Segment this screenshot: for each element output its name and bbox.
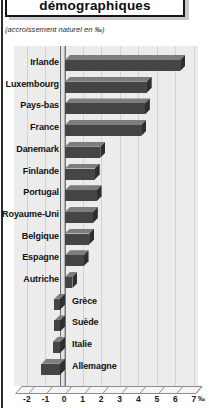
axis-unit-label: ‰ (198, 395, 205, 402)
category-label-suede: Suède (72, 312, 99, 334)
category-label-luxembourg: Luxembourg (5, 74, 59, 96)
axis-label-1: 1 (75, 394, 91, 404)
bar-portugal (65, 185, 102, 201)
bar-irlande (65, 55, 185, 71)
bar-row-autriche: Autriche (14, 269, 198, 291)
axis-tick-1 (84, 387, 90, 393)
bar-autriche (65, 272, 77, 288)
bar-danemark (65, 142, 105, 158)
axis-label--1: -1 (37, 394, 53, 404)
bar-france (65, 120, 146, 136)
category-label-pays-bas: Pays-bas (20, 95, 59, 117)
bar-top-face (65, 207, 98, 212)
category-label-allemagne: Allemagne (72, 356, 117, 378)
bar-face (65, 190, 97, 201)
x-axis-band (15, 386, 203, 394)
bar-top-face (65, 77, 152, 82)
bar-row-suede: Suède (14, 312, 198, 334)
axis-label--2: -2 (19, 394, 35, 404)
bar-face (54, 299, 60, 310)
bar-row-belgique: Belgique (14, 226, 198, 248)
category-label-royaume-uni: Royaume-Uni (2, 204, 59, 226)
axis-label-0: 0 (56, 394, 72, 404)
chart-subtitle: (accroissement naturel en ‰) (5, 25, 105, 34)
axis-tick--1 (47, 387, 53, 393)
axis-tick-3 (122, 387, 128, 393)
bar-royaume-uni (65, 207, 98, 223)
axis-tick-4 (140, 387, 146, 393)
bar-row-allemagne: Allemagne (14, 356, 198, 378)
bar-top-face (65, 164, 100, 169)
bar-face (65, 277, 72, 288)
bar-row-finlande: Finlande (14, 161, 198, 183)
axis-label-2: 2 (93, 394, 109, 404)
bar-suede (54, 315, 65, 331)
bar-top-face (65, 185, 102, 190)
bar-row-irlande: Irlande (14, 52, 198, 74)
bar-row-royaume-uni: Royaume-Uni (14, 204, 198, 226)
bar-face (65, 60, 180, 71)
bar-luxembourg (65, 77, 152, 93)
category-label-grece: Grèce (72, 291, 97, 313)
bar-row-portugal: Portugal (14, 182, 198, 204)
bar-italie (53, 337, 65, 353)
bar-finlande (65, 164, 100, 180)
bar-grece (54, 294, 65, 310)
category-label-italie: Italie (72, 334, 92, 356)
bar-face (65, 82, 147, 93)
bar-face (65, 255, 84, 266)
bar-top-face (65, 55, 185, 60)
axis-tick-0 (66, 387, 72, 393)
bar-face (54, 320, 60, 331)
bar-top-face (65, 120, 146, 125)
plot-area: IrlandeLuxembourgPays-basFranceDanemarkF… (14, 46, 198, 386)
bar-belgique (65, 229, 94, 245)
bar-row-italie: Italie (14, 334, 198, 356)
bar-top-face (65, 142, 105, 147)
axis-label-5: 5 (149, 394, 165, 404)
bar-face (65, 212, 93, 223)
bar-row-danemark: Danemark (14, 139, 198, 161)
bar-face (65, 125, 141, 136)
category-label-espagne: Espagne (22, 247, 59, 269)
axis-tick--2 (29, 387, 35, 393)
x-axis-labels: -2-101234567‰ (0, 394, 209, 408)
bar-face (65, 147, 100, 158)
bar-face (41, 364, 60, 375)
bar-top-face (65, 229, 94, 234)
axis-label-3: 3 (112, 394, 128, 404)
category-label-irlande: Irlande (30, 52, 59, 74)
chart-title: démographiques (39, 0, 151, 13)
category-label-finlande: Finlande (23, 161, 59, 183)
bar-row-espagne: Espagne (14, 247, 198, 269)
bar-face (65, 169, 95, 180)
category-label-portugal: Portugal (23, 182, 59, 204)
bar-face (65, 103, 145, 114)
bar-face (53, 342, 60, 353)
axis-tick-5 (159, 387, 165, 393)
bar-row-luxembourg: Luxembourg (14, 74, 198, 96)
axis-label-6: 6 (167, 394, 183, 404)
bar-pays-bas (65, 98, 150, 114)
category-label-belgique: Belgique (22, 226, 59, 248)
category-label-france: France (30, 117, 59, 139)
title-box: démographiques (5, 0, 185, 17)
category-label-danemark: Danemark (16, 139, 59, 161)
bar-face (65, 234, 89, 245)
bar-allemagne (41, 359, 65, 375)
axis-tick-7 (196, 387, 202, 393)
chart-page: démographiques (accroissement naturel en… (0, 0, 209, 408)
bar-top-face (65, 98, 150, 103)
bar-espagne (65, 250, 89, 266)
axis-label-4: 4 (130, 394, 146, 404)
bar-row-grece: Grèce (14, 291, 198, 313)
axis-tick-6 (177, 387, 183, 393)
axis-tick-2 (103, 387, 109, 393)
bar-row-pays-bas: Pays-bas (14, 95, 198, 117)
bar-row-france: France (14, 117, 198, 139)
category-label-autriche: Autriche (23, 269, 59, 291)
